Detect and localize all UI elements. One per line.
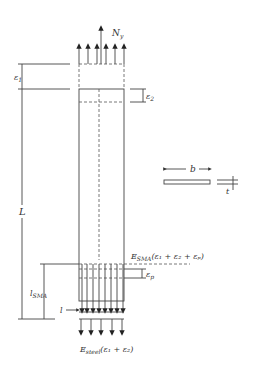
- width-label: b: [190, 164, 196, 174]
- sma-length-label: lSMA: [30, 289, 48, 299]
- steel-stress-label: Esteel(ε₁ + ε₂): [79, 345, 133, 355]
- epsp-label: εp: [146, 270, 154, 281]
- l-label: l: [60, 306, 63, 315]
- eps2-label: ε2: [146, 92, 154, 102]
- thickness-label: t: [226, 187, 230, 196]
- bottom-tension-arrows: [81, 319, 122, 333]
- cross-section: [164, 180, 210, 184]
- top-force-label: Ny: [111, 28, 124, 40]
- length-label: L: [18, 206, 26, 217]
- sma-stress-label: ESMA(ε₁ + ε₂ + εₚ): [130, 252, 204, 262]
- sma-wires: [82, 264, 123, 311]
- composite-member-diagram: Ny ε1 ε2 L b t εp ESMA(ε₁ + ε₂ + εₚ): [0, 0, 255, 372]
- eps1-label: ε1: [14, 73, 22, 83]
